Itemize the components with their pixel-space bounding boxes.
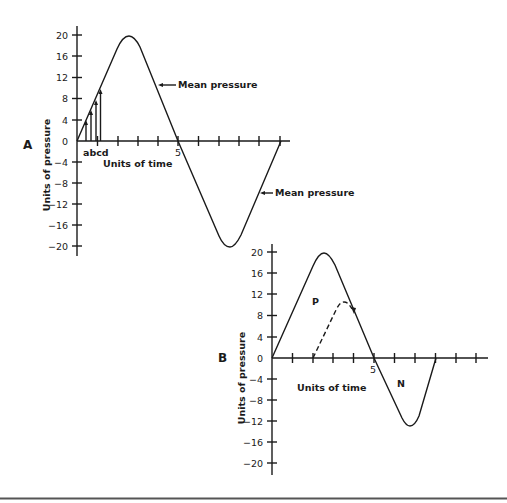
- panel-a-ytick-neg4: −4: [54, 157, 68, 168]
- panel-a-x-marker-5: 5: [175, 147, 181, 158]
- panel-a-ytick-0: 0: [62, 136, 68, 147]
- panel-b: 20 16 12 8 4 0 −4 −8 −12 −16 −20 P N 5 U…: [218, 244, 488, 475]
- panel-a-annotation-arrow-icon: [158, 83, 163, 87]
- panel-b-ytick-0: 0: [257, 353, 263, 364]
- panel-b-label: B: [218, 351, 227, 365]
- panel-a-ytick-20: 20: [56, 30, 68, 41]
- panel-a-label: A: [23, 138, 33, 152]
- panel-b-dashed-curve: [313, 302, 352, 358]
- panel-a-sample-labels: abcd: [83, 147, 109, 158]
- panel-a-ytick-4: 4: [62, 115, 68, 126]
- panel-a-ytick-8: 8: [62, 93, 68, 104]
- panel-b-x-label: Units of time: [297, 382, 366, 393]
- panel-b-y-label: Units of pressure: [236, 332, 247, 424]
- panel-a-x-label: Units of time: [103, 158, 172, 169]
- panel-a-annotation-mean-pressure-bottom: Mean pressure: [275, 187, 355, 198]
- panel-a-ytick-neg20: −20: [48, 241, 68, 252]
- panel-b-negative-label: N: [397, 378, 405, 389]
- panel-a-annotation-mean-pressure-top: Mean pressure: [178, 79, 258, 90]
- panel-b-x-marker-5: 5: [370, 364, 376, 375]
- panel-a-ytick-neg16: −16: [48, 220, 68, 231]
- panel-b-ytick-20: 20: [251, 247, 263, 258]
- panel-a-ytick-16: 16: [56, 51, 68, 62]
- panel-b-ytick-neg20: −20: [243, 458, 263, 469]
- panel-b-ytick-8: 8: [257, 310, 263, 321]
- panel-a-ytick-neg8: −8: [54, 178, 68, 189]
- panel-a-ytick-12: 12: [56, 72, 68, 83]
- panel-b-ytick-16: 16: [251, 268, 263, 279]
- panel-a-y-label: Units of pressure: [41, 119, 52, 211]
- panel-b-pressure-curve: [272, 253, 436, 426]
- panel-b-ytick-neg16: −16: [243, 437, 263, 448]
- panel-a-sample-arrows: [84, 89, 103, 141]
- panel-b-ytick-12: 12: [251, 289, 263, 300]
- panel-b-positive-label: P: [312, 296, 319, 307]
- pressure-time-diagram: 20 16 12 8 4 0 −4 −8 −12 −16 −20 abcd 5 …: [0, 0, 507, 503]
- panel-b-ytick-4: 4: [257, 332, 263, 343]
- panel-a-annotation-arrow-icon-2: [260, 191, 265, 195]
- panel-b-ytick-neg4: −4: [249, 374, 263, 385]
- panel-a: 20 16 12 8 4 0 −4 −8 −12 −16 −20 abcd 5 …: [23, 26, 355, 256]
- panel-b-ytick-neg8: −8: [249, 395, 263, 406]
